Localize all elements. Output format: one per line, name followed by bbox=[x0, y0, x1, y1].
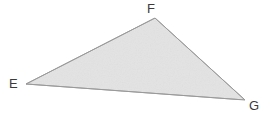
vertex-label-f: F bbox=[147, 2, 155, 15]
triangle-diagram bbox=[0, 0, 271, 121]
vertex-label-e: E bbox=[9, 77, 18, 90]
triangle-figure-canvas: E F G bbox=[0, 0, 271, 121]
triangle-shape-efg bbox=[26, 18, 245, 100]
vertex-label-g: G bbox=[249, 99, 259, 112]
